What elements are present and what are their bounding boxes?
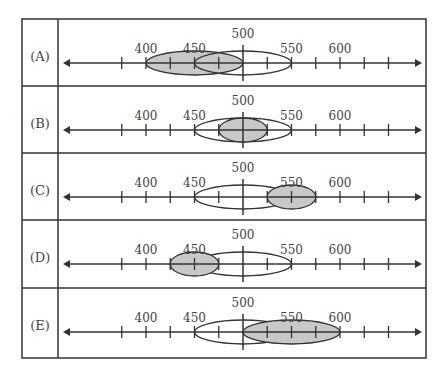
axis-label: 400	[135, 109, 158, 123]
axis-label: 550	[280, 176, 303, 190]
axis-label: 550	[280, 311, 303, 325]
option-label: (E)	[30, 318, 50, 333]
answer-choices-diagram: (A)400450500550600(B)400450500550600(C)4…	[0, 0, 445, 376]
axis-label: 450	[183, 311, 206, 325]
right-arrow-icon	[415, 193, 422, 201]
axis-label: 600	[329, 109, 352, 123]
axis-label: 400	[135, 42, 158, 56]
axis-label: 500	[232, 228, 255, 242]
option-row-c: (C)400450500550600	[22, 153, 426, 215]
axis-label: 550	[280, 243, 303, 257]
axis-label: 500	[232, 94, 255, 108]
axis-label: 450	[183, 42, 206, 56]
option-label: (C)	[30, 183, 50, 198]
left-arrow-icon	[63, 260, 70, 268]
axis-label: 600	[329, 176, 352, 190]
option-label: (D)	[30, 250, 51, 265]
left-arrow-icon	[63, 328, 70, 336]
axis-label: 550	[280, 109, 303, 123]
axis-label: 450	[183, 176, 206, 190]
axis-label: 400	[135, 243, 158, 257]
axis-label: 400	[135, 176, 158, 190]
axis-label: 600	[329, 42, 352, 56]
axis-label: 450	[183, 243, 206, 257]
left-arrow-icon	[63, 59, 70, 67]
axis-label: 500	[232, 161, 255, 175]
axis-label: 400	[135, 311, 158, 325]
right-arrow-icon	[415, 59, 422, 67]
option-row-b: (B)400450500550600	[22, 86, 426, 148]
axis-label: 500	[232, 27, 255, 41]
left-arrow-icon	[63, 126, 70, 134]
axis-label: 500	[232, 296, 255, 310]
option-label: (B)	[30, 116, 50, 131]
right-arrow-icon	[415, 328, 422, 336]
axis-label: 450	[183, 109, 206, 123]
axis-label: 600	[329, 311, 352, 325]
right-arrow-icon	[415, 126, 422, 134]
axis-label: 550	[280, 42, 303, 56]
right-arrow-icon	[415, 260, 422, 268]
option-row-d: (D)400450500550600	[22, 220, 426, 282]
option-row-e: (E)400450500550600	[22, 288, 426, 350]
option-row-a: (A)400450500550600	[30, 27, 422, 81]
option-label: (A)	[30, 49, 50, 64]
axis-label: 600	[329, 243, 352, 257]
left-arrow-icon	[63, 193, 70, 201]
